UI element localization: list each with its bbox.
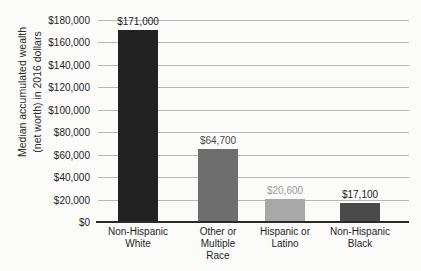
bar-chart: Median accumulated wealth (net worth) in… bbox=[0, 0, 421, 271]
y-axis-tick-label: $140,000 bbox=[34, 59, 90, 70]
y-axis-tick-label: $80,000 bbox=[34, 127, 90, 138]
x-axis-category-label: Non-Hispanic Black bbox=[330, 226, 390, 250]
y-axis-tick-label: $180,000 bbox=[34, 15, 90, 26]
bar[interactable] bbox=[118, 30, 158, 222]
y-axis-tick-label: $120,000 bbox=[34, 82, 90, 93]
bar-value-label: $171,000 bbox=[117, 16, 159, 27]
x-axis-category-label: Hispanic or Latino bbox=[260, 226, 310, 250]
plot-area: $171,000$64,700$20,600$17,100 bbox=[98, 20, 409, 222]
bar[interactable] bbox=[340, 203, 380, 222]
y-axis-tick-label: $40,000 bbox=[34, 172, 90, 183]
y-axis-title-line-1: Median accumulated wealth bbox=[15, 27, 30, 157]
y-axis-tick-label: $0 bbox=[34, 217, 90, 228]
x-axis-line bbox=[96, 221, 409, 223]
bar[interactable] bbox=[265, 199, 305, 222]
bar-value-label: $17,100 bbox=[342, 189, 378, 200]
y-axis-tick-label: $160,000 bbox=[34, 37, 90, 48]
y-axis-tick-label: $60,000 bbox=[34, 149, 90, 160]
bar-value-label: $20,600 bbox=[267, 185, 303, 196]
x-axis-category-label: Non-Hispanic White bbox=[108, 226, 168, 250]
y-axis-tick-label: $20,000 bbox=[34, 194, 90, 205]
bar[interactable] bbox=[198, 149, 238, 222]
x-axis-category-label: Other or Multiple Race bbox=[200, 226, 237, 262]
bar-value-label: $64,700 bbox=[200, 135, 236, 146]
y-axis-tick-labels: $0$20,000$40,000$60,000$80,000$100,000$1… bbox=[34, 0, 90, 271]
y-axis-tick-label: $100,000 bbox=[34, 104, 90, 115]
